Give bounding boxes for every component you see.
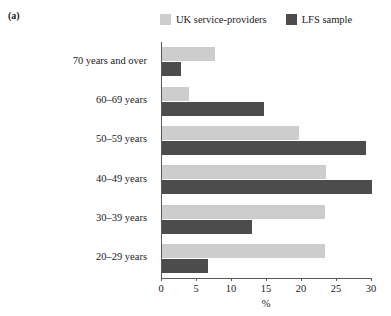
x-axis-tick-label: 30: [366, 283, 377, 294]
bar: [162, 259, 208, 273]
y-axis-label: 20–29 years: [96, 251, 147, 262]
bar: [162, 47, 215, 61]
bar: [162, 62, 181, 76]
bar-group: [162, 47, 371, 76]
x-axis-tick-mark: [231, 278, 232, 281]
x-axis-tick-mark: [161, 278, 162, 281]
legend-label-uk-service-providers: UK service-providers: [176, 14, 267, 25]
bar: [162, 126, 299, 140]
y-axis-label: 60–69 years: [96, 94, 147, 105]
y-axis-label: 30–39 years: [96, 212, 147, 223]
x-axis-tick-mark: [371, 278, 372, 281]
x-axis-tick-label: 20: [296, 283, 307, 294]
x-axis-tick-label: 25: [331, 283, 342, 294]
x-axis-tick-label: 10: [226, 283, 237, 294]
legend-item-lfs-sample: LFS sample: [286, 14, 352, 25]
chart-legend: UK service-providers LFS sample: [160, 14, 352, 25]
bar-group: [162, 244, 371, 273]
bar: [162, 180, 372, 194]
x-axis-tick-label: 0: [158, 283, 163, 294]
bar: [162, 244, 325, 258]
bar-group: [162, 205, 371, 234]
y-axis-category-labels: 70 years and over60–69 years50–59 years4…: [0, 42, 155, 278]
legend-swatch-uk-service-providers: [160, 14, 171, 25]
legend-item-uk-service-providers: UK service-providers: [160, 14, 267, 25]
x-axis-tick-mark: [266, 278, 267, 281]
bar: [162, 165, 326, 179]
y-axis-label: 50–59 years: [96, 133, 147, 144]
x-axis-tick-label: 15: [261, 283, 272, 294]
bar: [162, 141, 366, 155]
bar-group: [162, 87, 371, 116]
x-axis-tick-label: 5: [193, 283, 198, 294]
x-axis-tick-mark: [336, 278, 337, 281]
y-axis-line: [161, 42, 162, 278]
bar-group: [162, 165, 371, 194]
plot-area: 051015202530 %: [161, 42, 371, 278]
bar: [162, 205, 325, 219]
bar: [162, 87, 189, 101]
figure-panel-a: (a) UK service-providers LFS sample 70 y…: [0, 0, 391, 316]
legend-label-lfs-sample: LFS sample: [302, 14, 352, 25]
panel-label: (a): [8, 10, 20, 21]
x-axis-title: %: [262, 298, 271, 309]
legend-swatch-lfs-sample: [286, 14, 297, 25]
bar: [162, 220, 252, 234]
y-axis-label: 40–49 years: [96, 173, 147, 184]
y-axis-label: 70 years and over: [73, 55, 147, 66]
x-axis-tick-mark: [196, 278, 197, 281]
bar-group: [162, 126, 371, 155]
x-axis-tick-mark: [301, 278, 302, 281]
bar: [162, 102, 264, 116]
